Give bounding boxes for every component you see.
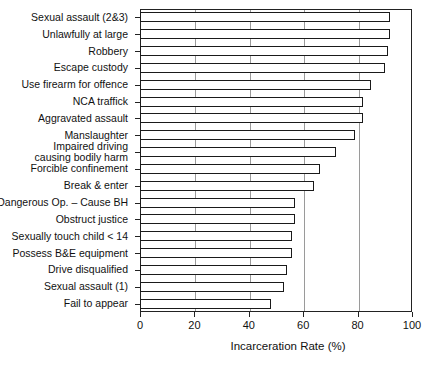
- bar: [140, 12, 390, 22]
- category-label: Unlawfully at large: [0, 29, 136, 40]
- bar-row: [140, 211, 295, 228]
- bar-row: [140, 161, 320, 178]
- bar: [140, 97, 363, 107]
- x-axis-tick: [249, 312, 250, 317]
- bar: [140, 231, 292, 241]
- bar: [140, 46, 388, 56]
- category-label: Possess B&E equipment: [0, 248, 136, 259]
- incarceration-rate-bar-chart: Sexual assault (2&3)Unlawfully at largeR…: [0, 0, 436, 369]
- x-axis-tick: [358, 312, 359, 317]
- bar: [140, 63, 385, 73]
- bar-row: [140, 245, 292, 262]
- bar-row: [140, 9, 390, 26]
- category-label: NCA traffick: [0, 96, 136, 107]
- bar: [140, 130, 355, 140]
- bar: [140, 164, 320, 174]
- bar-series: [140, 9, 412, 312]
- x-axis-tick-label: 0: [120, 319, 160, 331]
- x-axis-tick-label: 60: [283, 319, 323, 331]
- x-axis-tick: [303, 312, 304, 317]
- bar-row: [140, 262, 287, 279]
- bar-row: [140, 177, 314, 194]
- category-label: Dangerous Op. – Cause BH: [0, 197, 136, 208]
- category-label: Sexual assault (1): [0, 281, 136, 292]
- bar-row: [140, 93, 363, 110]
- x-axis-tick-label: 100: [392, 319, 432, 331]
- bar: [140, 29, 390, 39]
- x-axis-title-text: Incarceration Rate (%): [230, 340, 345, 352]
- bar-row: [140, 295, 271, 312]
- bar: [140, 198, 295, 208]
- bar: [140, 282, 284, 292]
- bar-row: [140, 76, 371, 93]
- bar-row: [140, 127, 355, 144]
- category-label: Drive disqualified: [0, 264, 136, 275]
- category-label: Break & enter: [0, 180, 136, 191]
- bar: [140, 147, 336, 157]
- bar: [140, 299, 271, 309]
- bar: [140, 80, 371, 90]
- bar-row: [140, 43, 388, 60]
- x-axis-tick: [412, 312, 413, 317]
- x-axis-tick: [194, 312, 195, 317]
- category-label: Fail to appear: [0, 298, 136, 309]
- bar: [140, 214, 295, 224]
- bar: [140, 248, 292, 258]
- category-label: Impaired driving causing bodily harm: [0, 141, 136, 163]
- category-axis-labels: Sexual assault (2&3)Unlawfully at largeR…: [0, 9, 136, 312]
- category-label: Escape custody: [0, 62, 136, 73]
- category-label: Obstruct justice: [0, 214, 136, 225]
- bar-row: [140, 144, 336, 161]
- category-label: Sexually touch child < 14: [0, 231, 136, 242]
- bar-row: [140, 278, 284, 295]
- category-label: Aggravated assault: [0, 113, 136, 124]
- bar-row: [140, 60, 385, 77]
- bar: [140, 113, 363, 123]
- category-label: Robbery: [0, 46, 136, 57]
- bar: [140, 181, 314, 191]
- bar-row: [140, 26, 390, 43]
- category-label: Forcible confinement: [0, 163, 136, 174]
- x-axis-title: Incarceration Rate (%): [0, 340, 436, 352]
- bar-row: [140, 110, 363, 127]
- bar: [140, 265, 287, 275]
- x-axis-tick-label: 40: [229, 319, 269, 331]
- bar-row: [140, 194, 295, 211]
- category-label: Use firearm for offence: [0, 79, 136, 90]
- category-label: Sexual assault (2&3): [0, 12, 136, 23]
- x-axis-tick: [140, 312, 141, 317]
- x-axis-tick-label: 20: [174, 319, 214, 331]
- bar-row: [140, 228, 292, 245]
- x-axis-tick-label: 80: [338, 319, 378, 331]
